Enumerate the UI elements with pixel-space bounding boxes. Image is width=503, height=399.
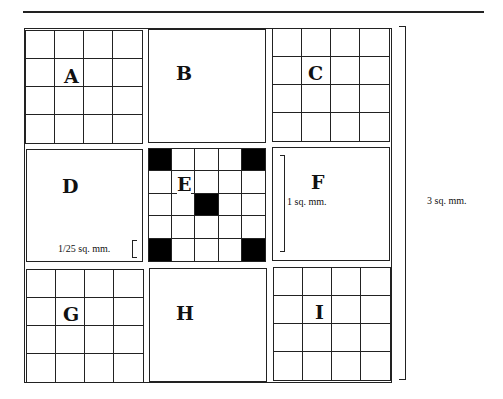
grid-cell: [332, 268, 361, 296]
grid-cell: [303, 352, 332, 380]
grid-cell: [303, 324, 332, 352]
grid-cell: [26, 87, 55, 115]
grid-cell: [26, 115, 55, 143]
grid-cell: [195, 239, 218, 261]
total-annotation: 3 sq. mm.: [427, 195, 466, 206]
grid-cell: [360, 29, 389, 57]
grid-cell: [172, 216, 195, 238]
grid-cell: [332, 324, 361, 352]
panel-d-annotation: 1/25 sq. mm.: [58, 243, 110, 254]
grid-cell: [27, 354, 56, 382]
grid-cell: [361, 296, 390, 324]
grid-cell: [219, 171, 242, 193]
panel-g-label: G: [63, 305, 79, 324]
grid-cell: [242, 194, 265, 216]
panel-a: A: [25, 30, 143, 144]
panel-a-label: A: [64, 67, 79, 86]
grid-cell: [195, 171, 218, 193]
grid-cell-filled: [149, 149, 172, 171]
grid-cell: [242, 171, 265, 193]
grid-cell: [114, 354, 143, 382]
grid-cell-filled: [195, 194, 218, 216]
grid-cell: [361, 352, 390, 380]
grid-cell: [172, 149, 195, 171]
total-bracket: [399, 26, 406, 380]
grid-cell: [331, 85, 360, 113]
grid-cell: [55, 31, 84, 59]
grid-cell: [113, 115, 142, 143]
panel-e-label: E: [177, 175, 191, 194]
grid-cell: [219, 216, 242, 238]
grid-cell-filled: [149, 239, 172, 261]
grid-cell: [85, 354, 114, 382]
grid-cell: [331, 29, 360, 57]
panel-b-label: B: [176, 64, 192, 83]
grid-cell: [219, 239, 242, 261]
grid-cell: [361, 268, 390, 296]
grid-cell: [331, 113, 360, 141]
grid-cell: [114, 270, 143, 298]
top-rule: [23, 11, 484, 13]
grid-cell: [273, 85, 302, 113]
grid-cell: [195, 149, 218, 171]
grid-cell: [172, 194, 195, 216]
grid-cell: [195, 216, 218, 238]
grid-cell: [55, 115, 84, 143]
panel-d-label: D: [62, 177, 78, 196]
panel-b: B: [148, 29, 266, 143]
panel-f: F 1 sq. mm.: [272, 147, 390, 261]
panel-e: E: [148, 148, 266, 262]
panel-g-grid: [27, 270, 143, 382]
grid-cell: [360, 85, 389, 113]
grid-cell: [273, 57, 302, 85]
grid-cell: [55, 87, 84, 115]
panel-f-label: F: [311, 173, 325, 192]
panel-d: D 1/25 sq. mm.: [26, 149, 143, 262]
grid-cell: [149, 171, 172, 193]
panel-d-bracket: [132, 240, 137, 258]
panel-f-annotation: 1 sq. mm.: [287, 196, 326, 207]
grid-cell: [56, 270, 85, 298]
grid-cell: [360, 57, 389, 85]
panel-h: H: [149, 268, 267, 382]
grid-cell: [274, 324, 303, 352]
grid-cell: [84, 31, 113, 59]
grid-cell: [273, 113, 302, 141]
grid-cell: [242, 216, 265, 238]
panel-f-bracket: [280, 155, 285, 252]
grid-cell-filled: [242, 149, 265, 171]
grid-cell: [302, 85, 331, 113]
grid-cell-filled: [242, 239, 265, 261]
grid-cell: [219, 149, 242, 171]
grid-cell: [114, 326, 143, 354]
grid-cell: [113, 59, 142, 87]
grid-cell: [85, 270, 114, 298]
grid-cell: [149, 194, 172, 216]
grid-cell: [56, 326, 85, 354]
panel-h-label: H: [176, 304, 194, 323]
grid-cell: [219, 194, 242, 216]
grid-cell: [85, 298, 114, 326]
grid-cell: [274, 296, 303, 324]
grid-cell: [149, 216, 172, 238]
grid-cell: [302, 113, 331, 141]
grid-cell: [27, 326, 56, 354]
grid-cell: [332, 296, 361, 324]
grid-cell: [172, 239, 195, 261]
panel-e-grid: [149, 149, 265, 261]
grid-cell: [274, 352, 303, 380]
grid-cell: [56, 354, 85, 382]
grid-cell: [303, 268, 332, 296]
grid-cell: [85, 326, 114, 354]
panel-g: G: [26, 269, 144, 383]
grid-cell: [114, 298, 143, 326]
grid-cell: [332, 352, 361, 380]
grid-cell: [273, 29, 302, 57]
grid-cell: [27, 298, 56, 326]
panel-c: C: [272, 28, 390, 142]
grid-cell: [113, 31, 142, 59]
panel-i-label: I: [315, 303, 324, 322]
grid-cell: [84, 87, 113, 115]
grid-cell: [27, 270, 56, 298]
grid-cell: [360, 113, 389, 141]
